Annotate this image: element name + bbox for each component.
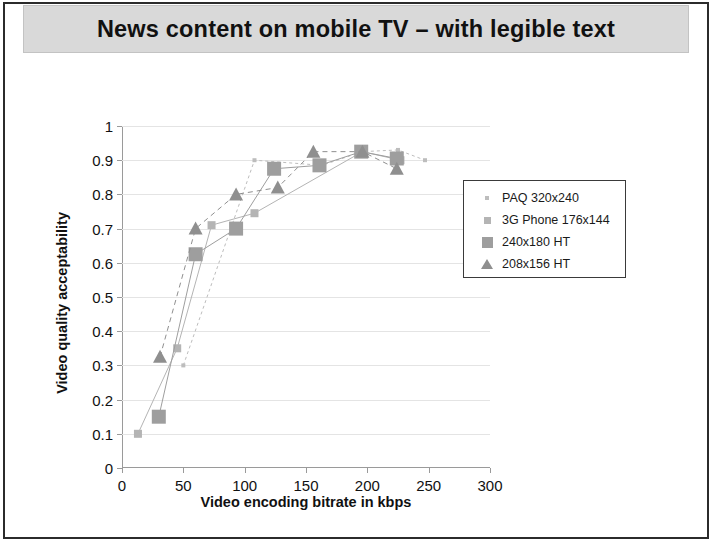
series-line xyxy=(183,150,425,365)
x-tick xyxy=(306,468,307,473)
data-point-marker xyxy=(181,363,185,367)
x-tick xyxy=(122,468,123,473)
y-tick-label: 0.9 xyxy=(92,152,113,169)
data-series xyxy=(134,148,405,438)
x-tick-label: 50 xyxy=(175,477,192,494)
data-point-marker xyxy=(250,209,258,217)
y-tick-label: 0.2 xyxy=(92,391,113,408)
y-tick-label: 0.1 xyxy=(92,425,113,442)
legend-item: 208x156 HT xyxy=(464,253,625,275)
y-tick-label: 0.5 xyxy=(92,289,113,306)
x-tick-label: 200 xyxy=(355,477,380,494)
x-tick-label: 250 xyxy=(416,477,441,494)
title-banner: News content on mobile TV – with legible… xyxy=(23,5,689,53)
legend-item-label: PAQ 320x240 xyxy=(502,191,579,205)
x-tick xyxy=(183,468,184,473)
data-point-marker xyxy=(229,222,243,236)
x-tick-label: 150 xyxy=(293,477,318,494)
chart-legend: PAQ 320x240 3G Phone 176x144 240x180 HT … xyxy=(463,180,626,278)
x-tick xyxy=(367,468,368,473)
data-point-marker xyxy=(267,162,281,176)
legend-item-label: 3G Phone 176x144 xyxy=(502,213,610,227)
x-tick xyxy=(429,468,430,473)
x-tick-label: 0 xyxy=(118,477,126,494)
triangle-marker-icon xyxy=(472,259,502,269)
data-point-marker xyxy=(208,221,216,229)
chart-container: Video quality acceptability Video encodi… xyxy=(23,62,689,532)
data-point-marker xyxy=(153,350,167,363)
data-point-marker xyxy=(312,158,326,172)
x-axis-title: Video encoding bitrate in kbps xyxy=(122,494,490,510)
page-title: News content on mobile TV – with legible… xyxy=(97,16,615,43)
y-tick-label: 0.3 xyxy=(92,357,113,374)
data-point-marker xyxy=(134,430,142,438)
data-point-marker xyxy=(189,247,203,261)
series-layer xyxy=(122,126,490,468)
y-tick-label: 1 xyxy=(105,118,113,135)
y-tick-label: 0.4 xyxy=(92,323,113,340)
y-tick-label: 0.6 xyxy=(92,254,113,271)
data-point-marker xyxy=(189,222,203,235)
data-point-marker xyxy=(396,148,400,152)
legend-item-label: 240x180 HT xyxy=(502,235,570,249)
legend-item: 3G Phone 176x144 xyxy=(464,209,625,231)
y-tick-label: 0.8 xyxy=(92,186,113,203)
data-point-marker xyxy=(252,158,256,162)
x-tick xyxy=(490,468,491,473)
plot-area: 00.10.20.30.40.50.60.70.80.91 0501001502… xyxy=(122,126,490,468)
y-tick-label: 0 xyxy=(105,460,113,477)
x-tick xyxy=(245,468,246,473)
slide-canvas: News content on mobile TV – with legible… xyxy=(0,0,712,542)
data-point-marker xyxy=(306,145,320,158)
y-tick-label: 0.7 xyxy=(92,220,113,237)
large-square-marker-icon xyxy=(472,237,502,248)
data-point-marker xyxy=(152,410,166,424)
legend-item-label: 208x156 HT xyxy=(502,257,570,271)
x-tick-label: 100 xyxy=(232,477,257,494)
x-tick-label: 300 xyxy=(477,477,502,494)
data-series xyxy=(181,148,427,367)
legend-item: 240x180 HT xyxy=(464,231,625,253)
dot-marker-icon xyxy=(472,196,502,200)
y-axis-title: Video quality acceptability xyxy=(54,212,70,394)
small-square-marker-icon xyxy=(472,217,502,224)
data-point-marker xyxy=(423,158,427,162)
legend-item: PAQ 320x240 xyxy=(464,187,625,209)
